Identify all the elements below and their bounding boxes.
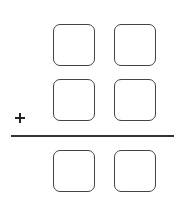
addend-2-tens-box[interactable] [53, 79, 95, 121]
plus-icon [15, 113, 25, 123]
sum-ones-box[interactable] [114, 150, 156, 192]
addend-1-tens-box[interactable] [53, 24, 95, 66]
sum-tens-box[interactable] [53, 150, 95, 192]
addend-1-ones-box[interactable] [114, 24, 156, 66]
addend-2-ones-box[interactable] [114, 79, 156, 121]
sum-line [11, 135, 174, 137]
